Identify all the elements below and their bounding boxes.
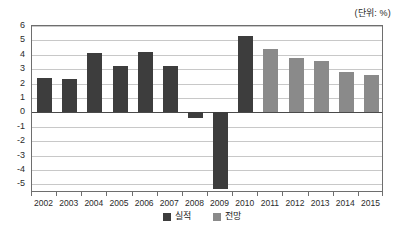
y-axis: 6543210-1-2-3-4-5 xyxy=(0,25,28,192)
y-tick-label: -4 xyxy=(17,164,25,173)
y-tick-label: -3 xyxy=(17,150,25,159)
y-tick-label: 3 xyxy=(20,64,25,73)
bar xyxy=(263,49,278,112)
y-tick-label: 0 xyxy=(20,107,25,116)
bar xyxy=(37,78,52,113)
legend: 실적전망 xyxy=(0,212,403,221)
bars-layer xyxy=(32,26,382,191)
x-tick xyxy=(333,192,334,196)
x-tick xyxy=(382,192,383,196)
x-tick xyxy=(157,192,158,196)
bar xyxy=(364,75,379,112)
y-tick-label: 5 xyxy=(20,35,25,44)
x-tick xyxy=(232,192,233,196)
bar xyxy=(213,112,228,188)
x-tick-label: 2013 xyxy=(311,198,330,208)
x-tick xyxy=(358,192,359,196)
bar xyxy=(314,61,329,113)
legend-item: 전망 xyxy=(213,212,241,221)
x-tick-label: 2005 xyxy=(110,198,129,208)
x-axis: 2002200320042005200620072008200920102011… xyxy=(31,192,383,214)
bar xyxy=(238,36,253,112)
x-tick-label: 2010 xyxy=(235,198,254,208)
y-tick-label: -5 xyxy=(17,179,25,188)
y-tick-label: 1 xyxy=(20,92,25,101)
x-tick xyxy=(182,192,183,196)
x-tick xyxy=(56,192,57,196)
x-tick-label: 2002 xyxy=(34,198,53,208)
bar xyxy=(163,66,178,112)
x-tick-label: 2009 xyxy=(210,198,229,208)
y-tick-label: 6 xyxy=(20,21,25,30)
x-tick-label: 2007 xyxy=(160,198,179,208)
legend-swatch-icon xyxy=(163,213,171,221)
y-tick-label: -1 xyxy=(17,121,25,130)
x-tick xyxy=(282,192,283,196)
x-tick xyxy=(308,192,309,196)
bar-chart: (단위: %) 6543210-1-2-3-4-5 20022003200420… xyxy=(0,0,403,232)
unit-caption: (단위: %) xyxy=(355,6,391,19)
x-tick-label: 2012 xyxy=(286,198,305,208)
legend-label: 전망 xyxy=(225,212,241,221)
x-tick xyxy=(81,192,82,196)
bar xyxy=(62,79,77,112)
x-tick-label: 2003 xyxy=(59,198,78,208)
x-tick xyxy=(132,192,133,196)
x-tick xyxy=(106,192,107,196)
plot-area xyxy=(31,25,383,192)
bar xyxy=(339,72,354,112)
x-tick-label: 2006 xyxy=(135,198,154,208)
bar xyxy=(138,52,153,112)
x-tick-label: 2004 xyxy=(84,198,103,208)
x-tick xyxy=(257,192,258,196)
legend-swatch-icon xyxy=(213,213,221,221)
x-tick-label: 2011 xyxy=(261,198,279,208)
legend-label: 실적 xyxy=(175,212,191,221)
y-tick-label: 4 xyxy=(20,49,25,58)
x-tick xyxy=(31,192,32,196)
bar xyxy=(188,112,203,118)
y-tick-label: 2 xyxy=(20,78,25,87)
bar xyxy=(87,53,102,112)
legend-item: 실적 xyxy=(163,212,191,221)
y-tick-label: -2 xyxy=(17,136,25,145)
x-tick-label: 2015 xyxy=(361,198,380,208)
x-tick-label: 2014 xyxy=(336,198,355,208)
bar xyxy=(289,58,304,113)
x-tick xyxy=(207,192,208,196)
x-tick-label: 2008 xyxy=(185,198,204,208)
bar xyxy=(113,66,128,112)
